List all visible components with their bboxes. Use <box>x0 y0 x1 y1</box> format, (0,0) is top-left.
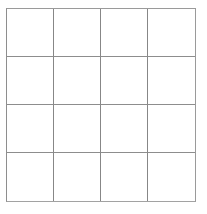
grid-cell-r1-c3[interactable] <box>101 9 148 57</box>
grid-cell-r2-c2[interactable] <box>54 57 101 105</box>
grid-cell-r4-c1[interactable] <box>7 153 54 201</box>
grid-cell-r2-c4[interactable] <box>148 57 195 105</box>
grid-cell-r3-c3[interactable] <box>101 105 148 153</box>
grid-cell-r4-c4[interactable] <box>148 153 195 201</box>
grid-cell-r1-c1[interactable] <box>7 9 54 57</box>
grid-canvas <box>0 0 207 214</box>
grid-cell-r1-c2[interactable] <box>54 9 101 57</box>
grid-cell-r4-c2[interactable] <box>54 153 101 201</box>
grid-cell-r2-c1[interactable] <box>7 57 54 105</box>
grid-cell-r4-c3[interactable] <box>101 153 148 201</box>
grid-cell-r3-c1[interactable] <box>7 105 54 153</box>
grid-container <box>6 8 196 202</box>
grid-cell-r3-c4[interactable] <box>148 105 195 153</box>
grid-cell-r3-c2[interactable] <box>54 105 101 153</box>
grid-cell-r1-c4[interactable] <box>148 9 195 57</box>
grid-cell-r2-c3[interactable] <box>101 57 148 105</box>
